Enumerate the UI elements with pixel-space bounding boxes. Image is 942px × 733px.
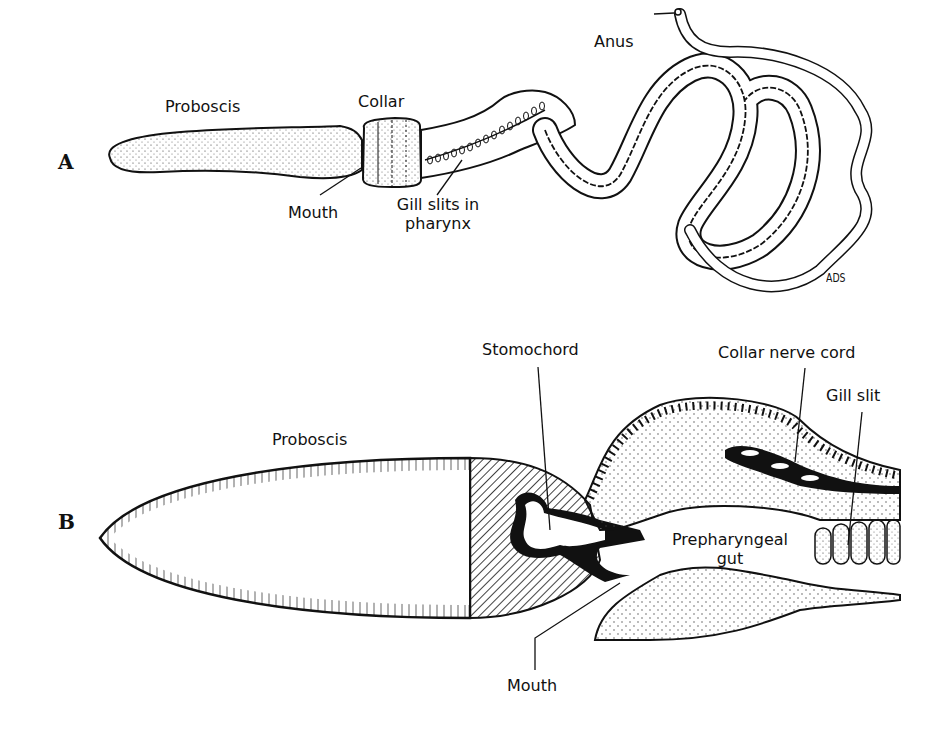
collar-lower-b xyxy=(595,567,900,640)
panel-letter-b: B xyxy=(58,510,75,534)
label-prepharyngeal-line2: gut xyxy=(655,549,805,568)
diagram-artwork xyxy=(0,0,942,733)
label-collar-nerve-cord: Collar nerve cord xyxy=(718,343,855,362)
label-anus-a: Anus xyxy=(594,32,634,51)
label-mouth-a: Mouth xyxy=(288,203,338,222)
gill-slits-b xyxy=(815,520,900,564)
label-prepharyngeal-gut: Prepharyngeal gut xyxy=(655,530,805,568)
panel-b-drawing xyxy=(100,367,900,670)
panel-a-drawing xyxy=(109,9,866,286)
label-gill-slits-a: Gill slits in pharynx xyxy=(383,195,493,233)
label-collar-a: Collar xyxy=(358,92,404,111)
label-gill-slit: Gill slit xyxy=(826,386,880,405)
label-gill-slits-line1: Gill slits in xyxy=(383,195,493,214)
label-proboscis-b: Proboscis xyxy=(272,430,347,449)
label-gill-slits-line2: pharynx xyxy=(383,214,493,233)
label-prepharyngeal-line1: Prepharyngeal xyxy=(655,530,805,549)
label-proboscis-a: Proboscis xyxy=(165,97,240,116)
proboscis-a xyxy=(109,126,362,178)
artist-signature: ADS xyxy=(826,270,846,285)
label-stomochord: Stomochord xyxy=(482,340,579,359)
label-mouth-b: Mouth xyxy=(507,676,557,695)
panel-letter-a: A xyxy=(58,150,74,174)
